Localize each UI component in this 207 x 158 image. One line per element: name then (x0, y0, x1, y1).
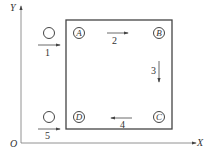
empty-position-bottom (43, 111, 55, 123)
move-4-label: 4 (120, 120, 125, 130)
station-c: C (153, 111, 165, 123)
move-5-label: 5 (45, 131, 50, 141)
empty-position-top (43, 27, 55, 39)
y-axis-label: Y (10, 3, 16, 13)
station-a: A (73, 27, 85, 39)
diagram-canvas (0, 0, 207, 158)
x-axis-label: X (197, 138, 203, 148)
station-b: B (153, 27, 165, 39)
move-3-label: 3 (151, 66, 156, 76)
move-2-label: 2 (112, 36, 117, 46)
move-1-label: 1 (45, 48, 50, 58)
origin-label: O (10, 139, 17, 149)
station-d: D (73, 111, 85, 123)
